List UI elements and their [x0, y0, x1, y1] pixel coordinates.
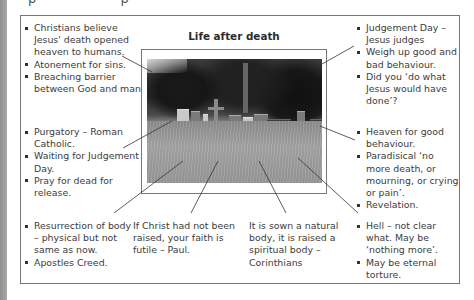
grass-field	[147, 121, 322, 183]
quote-corinthians: It is sown a natural body, it is raised …	[249, 220, 347, 269]
bullet-item: Apostles Creed.	[24, 257, 132, 269]
bullet-item: Breaching barrier between God and man.	[24, 71, 144, 95]
bullet-item: May be eternal torture.	[356, 257, 464, 281]
bullet-item: Revelation.	[356, 199, 460, 211]
cut-off-heading-text: p p	[28, 0, 169, 6]
bullet-item: Paradisical ‘no more death, or mourning,…	[356, 150, 460, 199]
bullet-item: Resurrection of body – physical but not …	[24, 220, 132, 257]
graveyard-photo	[147, 59, 322, 183]
bullet-item: Heaven for good behaviour.	[356, 126, 460, 150]
text-block-middle-left: Purgatory – Roman Catholic. Waiting for …	[24, 126, 144, 199]
sky-highlight	[147, 59, 187, 73]
bullet-item: Did you ‘do what Jesus would have done’?	[356, 71, 460, 108]
cross-headstone-arm	[208, 107, 224, 110]
text-block-middle-right: Heaven for good behaviour. Paradisical ‘…	[356, 126, 460, 211]
quote-paul: If Christ had not been raised, your fait…	[133, 220, 245, 257]
text-block-top-left: Christians believe Jesus' death opened h…	[24, 22, 144, 95]
bullet-item: Waiting for Judgement Day.	[24, 150, 144, 174]
page-edge-strip	[0, 0, 7, 300]
bullet-item: Hell – not clear what. May be ‘nothing m…	[356, 220, 464, 257]
bullet-item: Judgement Day – Jesus judges	[356, 22, 460, 46]
text-block-bottom-right: Hell – not clear what. May be ‘nothing m…	[356, 220, 464, 281]
bullet-item: Atonement for sins.	[24, 59, 144, 71]
diagram-title: Life after death	[141, 30, 327, 42]
bullet-item: Weigh up good and bad behaviour.	[356, 46, 460, 70]
text-block-top-right: Judgement Day – Jesus judges Weigh up go…	[356, 22, 460, 107]
bullet-item: Christians believe Jesus' death opened h…	[24, 22, 144, 59]
photo-frame	[141, 49, 327, 194]
bullet-item: Pray for dead for release.	[24, 175, 144, 199]
tree-trunk	[243, 63, 248, 113]
bullet-item: Purgatory – Roman Catholic.	[24, 126, 144, 150]
text-block-bottom-left: Resurrection of body – physical but not …	[24, 220, 132, 269]
